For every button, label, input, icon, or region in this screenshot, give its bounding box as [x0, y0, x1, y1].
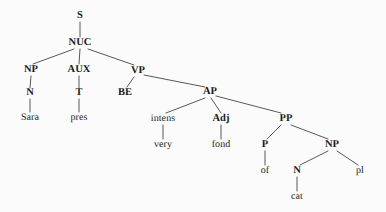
tree-node-n1: N: [26, 88, 34, 99]
tree-edge-nuc-to-aux: [79, 49, 80, 64]
tree-node-very: very: [154, 140, 172, 150]
tree-node-np1: NP: [24, 65, 38, 76]
tree-edges-layer: [0, 0, 386, 212]
tree-edge-vp-to-be: [127, 77, 134, 87]
tree-node-of: of: [261, 166, 270, 176]
tree-node-np2: NP: [325, 140, 339, 151]
tree-node-intens: intens: [151, 114, 176, 124]
tree-node-sara: Sara: [21, 113, 39, 123]
tree-node-pres: pres: [70, 113, 87, 123]
tree-edge-np2-to-n2: [300, 151, 328, 165]
tree-edge-ap-to-adj: [211, 98, 221, 113]
tree-edge-nuc-to-vp: [88, 49, 134, 65]
tree-edge-ap-to-intens: [166, 98, 205, 113]
tree-node-aux: AUX: [67, 65, 90, 76]
tree-node-pl: pl: [356, 166, 364, 176]
tree-node-cat: cat: [291, 192, 303, 202]
tree-edge-pp-to-p: [267, 125, 281, 139]
tree-node-vp: VP: [131, 66, 145, 77]
tree-node-p: P: [262, 140, 269, 151]
tree-node-ap: AP: [203, 87, 217, 98]
tree-edge-pp-to-np2: [291, 125, 328, 139]
tree-edge-vp-to-ap: [144, 75, 205, 87]
tree-edge-np2-to-pl: [337, 151, 358, 165]
tree-node-fond: fond: [212, 140, 231, 150]
tree-node-adj: Adj: [212, 114, 229, 125]
tree-node-pp: PP: [279, 114, 292, 125]
tree-node-be: BE: [118, 88, 132, 99]
tree-node-t: T: [75, 88, 82, 99]
tree-node-n2: N: [293, 166, 301, 177]
tree-edge-ap-to-pp: [216, 96, 281, 113]
tree-node-s: S: [77, 11, 83, 22]
tree-node-nuc: NUC: [68, 38, 91, 49]
syntax-tree-diagram: SNUCNPAUXVPNTBESarapresAPintensAdjPPvery…: [0, 0, 386, 212]
tree-edge-nuc-to-np1: [33, 49, 74, 64]
